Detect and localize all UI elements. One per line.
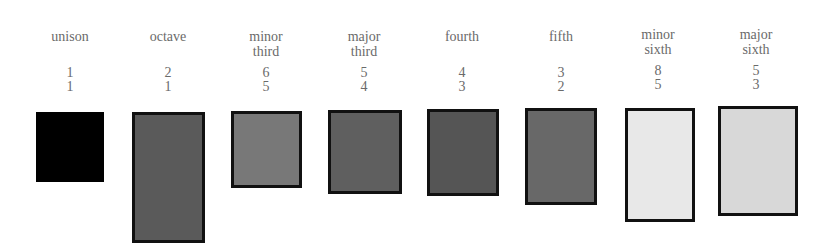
interval-label-major-third: major third [314,29,414,59]
interval-name-line1: major [314,29,414,44]
ratio-denominator: 1 [20,80,120,94]
ratio-denominator: 3 [412,80,512,94]
ratio-denominator: 5 [216,80,316,94]
interval-swatch-fourth [427,109,499,196]
interval-ratio-major-third: 5 4 [314,66,414,94]
interval-label-fourth: fourth [412,29,512,44]
interval-ratio-minor-sixth: 8 5 [608,64,708,92]
interval-swatch-major-sixth [718,106,798,216]
ratio-denominator: 3 [706,78,806,92]
interval-label-minor-third: minor third [216,29,316,59]
ratio-denominator: 4 [314,80,414,94]
interval-label-major-sixth: major sixth [706,27,806,57]
ratio-numerator: 5 [706,64,806,78]
interval-swatch-unison [36,112,104,182]
interval-swatch-octave [132,112,205,243]
interval-swatch-minor-third [231,111,302,188]
interval-name-line2: third [216,44,316,59]
interval-name-line1: fifth [511,29,611,44]
ratio-denominator: 5 [608,78,708,92]
ratio-numerator: 1 [20,66,120,80]
interval-ratio-fifth: 3 2 [511,66,611,94]
interval-ratio-major-sixth: 5 3 [706,64,806,92]
interval-name-line1: major [706,27,806,42]
interval-name-line2: third [314,44,414,59]
ratio-numerator: 8 [608,64,708,78]
interval-name-line2: sixth [706,42,806,57]
interval-swatch-fifth [525,108,597,205]
interval-name-line1: octave [118,29,218,44]
interval-name-line1: minor [608,27,708,42]
interval-label-unison: unison [20,29,120,44]
interval-ratio-unison: 1 1 [20,66,120,94]
interval-name-line1: unison [20,29,120,44]
ratio-numerator: 6 [216,66,316,80]
interval-swatch-major-third [328,110,402,194]
ratio-denominator: 1 [118,80,218,94]
ratio-numerator: 4 [412,66,512,80]
ratio-numerator: 3 [511,66,611,80]
interval-ratio-octave: 2 1 [118,66,218,94]
interval-swatch-minor-sixth [625,108,695,222]
interval-ratio-minor-third: 6 5 [216,66,316,94]
ratio-numerator: 2 [118,66,218,80]
interval-label-fifth: fifth [511,29,611,44]
ratio-numerator: 5 [314,66,414,80]
interval-ratio-fourth: 4 3 [412,66,512,94]
interval-name-line1: fourth [412,29,512,44]
interval-name-line2: sixth [608,42,708,57]
interval-name-line1: minor [216,29,316,44]
interval-label-minor-sixth: minor sixth [608,27,708,57]
ratio-denominator: 2 [511,80,611,94]
interval-label-octave: octave [118,29,218,44]
